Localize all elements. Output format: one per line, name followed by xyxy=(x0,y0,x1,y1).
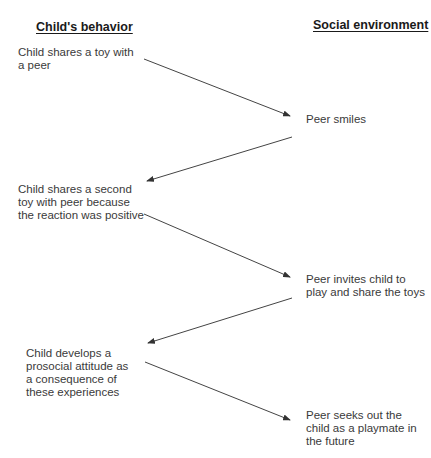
arrow-3 xyxy=(144,214,290,277)
arrow-1 xyxy=(144,59,290,116)
flow-arrows xyxy=(0,0,431,458)
arrow-2 xyxy=(147,137,292,181)
arrow-5 xyxy=(145,362,290,420)
arrow-4 xyxy=(148,298,292,343)
